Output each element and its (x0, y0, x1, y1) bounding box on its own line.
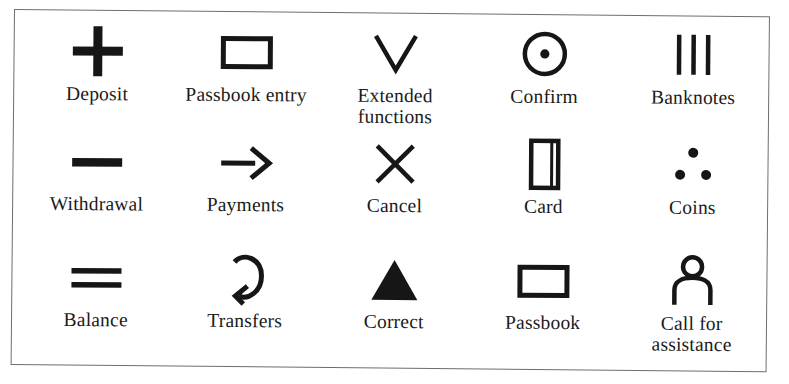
rectangle-icon (214, 23, 278, 81)
rectangle-icon (511, 253, 575, 309)
equals-icon (66, 250, 126, 306)
chevron-down-icon (365, 24, 425, 82)
legend-cell-deposit: Deposit (22, 16, 172, 133)
legend-cell-banknotes: Banknotes (618, 19, 768, 136)
legend-label: Extended functions (329, 86, 461, 128)
legend-cell-transfers: Transfers (170, 249, 320, 366)
legend-cell-confirm: Confirm (469, 18, 619, 135)
three-dots-icon (665, 138, 719, 194)
legend-cell-passbook: Passbook (468, 250, 618, 367)
minus-icon (67, 134, 127, 190)
legend-label: Confirm (510, 87, 578, 108)
legend-label: Transfers (207, 311, 282, 332)
legend-label: Cancel (367, 196, 422, 217)
filled-triangle-icon (366, 252, 422, 308)
legend-cell-withdrawal: Withdrawal (22, 132, 172, 249)
arrow-right-icon (215, 135, 277, 191)
figure-page: Deposit Passbook entry Extended function… (0, 0, 789, 384)
legend-cell-payments: Payments (171, 133, 321, 250)
legend-cell-coins: Coins (618, 135, 768, 252)
legend-label: Coins (669, 198, 716, 219)
three-bars-icon (667, 26, 719, 84)
card-icon (521, 137, 565, 193)
legend-label: Balance (64, 310, 128, 331)
legend-cell-balance: Balance (21, 248, 171, 365)
legend-cell-call-for-assistance: Call for assistance (617, 251, 767, 368)
legend-label: Deposit (66, 84, 128, 105)
legend-label: Correct (364, 312, 424, 333)
legend-label: Passbook (505, 313, 580, 334)
legend-cell-cancel: Cancel (320, 134, 470, 251)
legend-cell-card: Card (469, 134, 619, 251)
person-icon (666, 254, 718, 310)
circle-dot-icon (518, 25, 570, 83)
legend-cell-passbook-entry: Passbook entry (171, 17, 321, 134)
legend-label: Withdrawal (50, 194, 143, 215)
plus-icon (68, 22, 126, 80)
cross-x-icon (370, 136, 420, 192)
legend-cell-correct: Correct (319, 250, 469, 367)
icon-legend-grid: Deposit Passbook entry Extended function… (21, 16, 768, 369)
legend-cell-extended-functions: Extended functions (320, 18, 470, 135)
curved-arrow-icon (219, 251, 271, 307)
legend-label: Card (524, 197, 563, 218)
legend-label: Banknotes (651, 88, 735, 109)
legend-label: Call for assistance (626, 313, 758, 355)
legend-label: Passbook entry (185, 85, 307, 106)
legend-label: Payments (207, 195, 285, 216)
